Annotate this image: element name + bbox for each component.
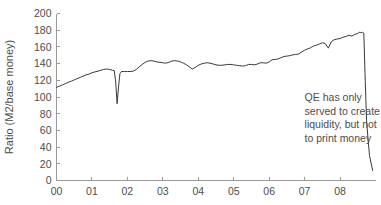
y-tick-label: 20 xyxy=(40,158,52,170)
x-tick-label: 06 xyxy=(263,185,275,197)
x-tick-label: 02 xyxy=(122,185,134,197)
qe-annotation-line: QE has only xyxy=(305,91,363,103)
y-tick-label: 40 xyxy=(40,141,52,153)
x-tick-label: 03 xyxy=(157,185,169,197)
y-axis-title: Ratio (M2/base money) xyxy=(3,40,15,154)
y-tick-label: 120 xyxy=(34,74,52,86)
y-tick-label: 100 xyxy=(34,91,52,103)
y-tick-label: 180 xyxy=(34,24,52,36)
qe-annotation-line: to print money xyxy=(305,132,372,144)
y-tick-label: 160 xyxy=(34,41,52,53)
y-tick-label: 200 xyxy=(34,7,52,19)
chart-annotations: QE has onlyserved to createliquidity, bu… xyxy=(305,91,380,144)
x-tick-label: 08 xyxy=(334,185,346,197)
y-tick-label: 80 xyxy=(40,108,52,120)
x-tick-label: 00 xyxy=(51,185,63,197)
qe-annotation-line: liquidity, but not xyxy=(305,118,377,130)
line-chart: 020406080100120140160180200 000102030405… xyxy=(0,0,381,205)
x-tick-label: 05 xyxy=(228,185,240,197)
x-axis-ticks: 000102030405060708 xyxy=(51,177,346,197)
y-tick-label: 140 xyxy=(34,57,52,69)
y-tick-label: 60 xyxy=(40,124,52,136)
x-tick-label: 07 xyxy=(299,185,311,197)
x-tick-label: 04 xyxy=(192,185,204,197)
x-tick-label: 01 xyxy=(86,185,98,197)
chart-container: 020406080100120140160180200 000102030405… xyxy=(0,0,381,205)
qe-annotation-line: served to create xyxy=(305,105,380,117)
